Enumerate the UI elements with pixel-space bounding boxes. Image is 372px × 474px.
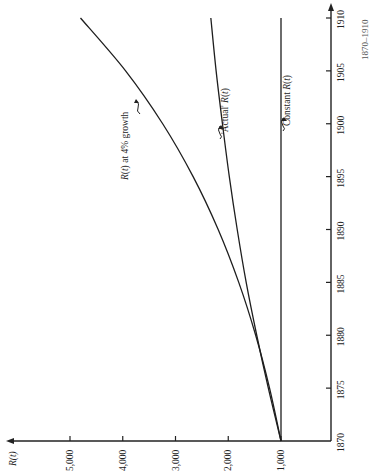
annotation-growth-label: R(t) at 4% growth	[120, 111, 131, 181]
actual-curve	[211, 18, 281, 441]
annotation-actual: 'Actual' R(t)	[218, 88, 231, 139]
time-axis-tick-label: 1905	[336, 63, 346, 82]
series-curves	[80, 18, 281, 441]
time-axis-tick-label: 1885	[336, 274, 346, 293]
annotation-actual-label: 'Actual' R(t)	[220, 88, 231, 134]
rent-growth-chart: 1,0002,0003,0004,0005,000 18701875188018…	[0, 0, 372, 474]
time-axis-tick-label: 1875	[336, 380, 346, 399]
time-axis-tick-label: 1910	[336, 10, 346, 29]
annotation-constant-label: Constant R(t)	[282, 75, 293, 126]
annotation-constant: Constant R(t)	[281, 75, 293, 131]
r-axis-tick-label: 1,000	[276, 449, 286, 471]
r-axis-tick-label: 2,000	[223, 449, 233, 471]
axes	[6, 3, 334, 444]
r-axis-tick-label: 5,000	[65, 449, 75, 471]
time-axis-tick-label: 1880	[336, 327, 346, 346]
r-axis-tick-label: 3,000	[171, 449, 181, 471]
growth-4pct-curve	[80, 18, 281, 441]
time-axis-ticks: 187018751880188518901895190019051910	[326, 10, 346, 452]
time-axis-tick-label: 1895	[336, 168, 346, 187]
annotation-growth: R(t) at 4% growth	[120, 99, 140, 181]
r-axis-label: R(t)	[8, 451, 19, 467]
time-axis-tick-label: 1890	[336, 221, 346, 240]
time-axis-arrow-icon	[328, 3, 334, 11]
r-axis-arrow-icon	[6, 438, 14, 444]
r-axis-tick-label: 4,000	[118, 449, 128, 471]
time-axis-tick-label: 1870	[336, 433, 346, 452]
caption-fragment: 1870–1910	[360, 19, 370, 60]
time-axis-tick-label: 1900	[336, 116, 346, 135]
